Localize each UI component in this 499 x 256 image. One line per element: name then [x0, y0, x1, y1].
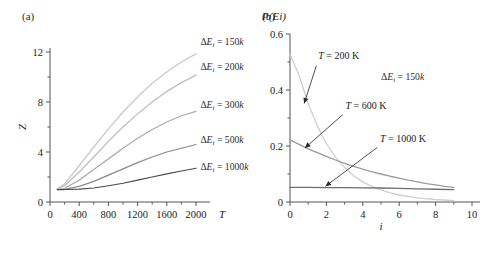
curve-label-dE500: ΔEi = 500k [200, 134, 244, 147]
arrowhead-T1000 [325, 181, 331, 186]
panel-b: (b) 024681000.20.40.6iP(Ei)ΔEi = 150kT =… [250, 0, 499, 256]
x-tick-label: 2 [324, 209, 329, 220]
leader-T600 [305, 115, 343, 148]
y-tick-label: 8 [38, 97, 43, 108]
panel-b-plot: 024681000.20.40.6iP(Ei)ΔEi = 150kT = 200… [250, 0, 499, 256]
y-tick-label: 0.2 [270, 141, 283, 152]
y-tick-label: 0.6 [270, 29, 283, 40]
y-tick-label: 12 [33, 47, 44, 58]
y-tick-label: 0 [278, 197, 283, 208]
curve-dE150 [57, 54, 196, 189]
label-T600: T = 600 K [346, 100, 388, 111]
x-tick-label: 800 [101, 209, 117, 220]
x-tick-label: 4 [360, 209, 366, 220]
figure-root: (a) 040080012001600200004812TZΔEi = 150k… [0, 0, 499, 256]
x-tick-label: 2000 [186, 209, 207, 220]
x-tick-label: 10 [467, 209, 478, 220]
curve-T200 [290, 54, 454, 200]
y-axis-title: Z [16, 123, 28, 130]
y-tick-label: 0 [38, 197, 43, 208]
x-tick-label: 0 [47, 209, 52, 220]
curve-label-dE300: ΔEi = 300k [200, 99, 244, 112]
y-tick-label: 4 [38, 147, 44, 158]
x-tick-label: 1200 [127, 209, 148, 220]
label-T1000: T = 1000 K [380, 133, 427, 144]
x-axis-title: i [379, 220, 382, 232]
leader-T200 [304, 66, 316, 104]
y-tick-label: 0.4 [270, 85, 284, 96]
panel-a-plot: 040080012001600200004812TZΔEi = 150kΔEi … [0, 0, 250, 256]
y-axis-title: P(Ei) [261, 10, 286, 23]
curve-T600 [290, 140, 454, 188]
curve-label-dE150: ΔEi = 150k [200, 36, 244, 49]
x-axis-title: T [219, 208, 226, 220]
label-T200: T = 200 K [318, 50, 360, 61]
x-tick-label: 6 [397, 209, 402, 220]
curve-T1000 [290, 187, 454, 189]
annotation-delta-e: ΔEi = 150k [381, 71, 425, 84]
x-tick-label: 400 [71, 209, 87, 220]
curve-label-dE1000: ΔEi = 1000k [200, 161, 249, 174]
x-tick-label: 1600 [156, 209, 177, 220]
x-tick-label: 0 [287, 209, 292, 220]
panel-a: (a) 040080012001600200004812TZΔEi = 150k… [0, 0, 250, 256]
curve-label-dE200: ΔEi = 200k [200, 61, 244, 74]
x-tick-label: 8 [433, 209, 438, 220]
